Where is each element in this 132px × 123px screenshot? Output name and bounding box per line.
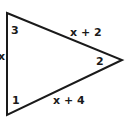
side-top-label: x + 2 bbox=[70, 26, 102, 39]
angle-1-label: 1 bbox=[12, 94, 20, 107]
triangle-diagram: 3 2 1 x x + 2 x + 4 bbox=[0, 0, 132, 123]
side-bottom-label: x + 4 bbox=[53, 94, 85, 107]
side-left-label: x bbox=[0, 50, 5, 63]
angle-3-label: 3 bbox=[11, 24, 19, 37]
angle-2-label: 2 bbox=[96, 55, 104, 68]
